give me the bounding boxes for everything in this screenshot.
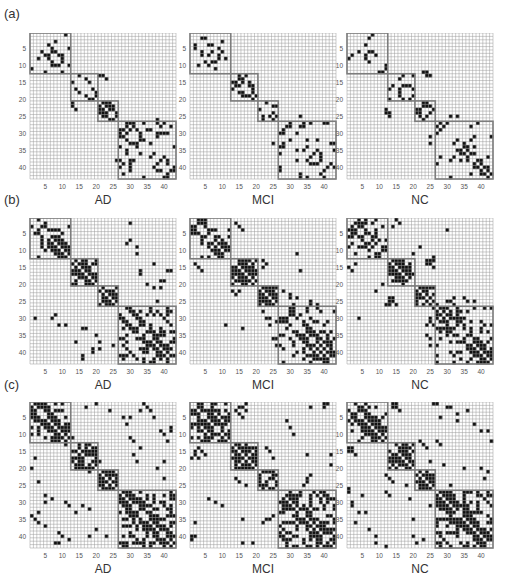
svg-text:35: 35	[19, 516, 27, 523]
svg-text:15: 15	[76, 552, 84, 559]
group-label-nc: NC	[347, 378, 493, 392]
svg-text:40: 40	[19, 164, 27, 171]
svg-text:30: 30	[287, 368, 295, 375]
svg-text:30: 30	[127, 552, 135, 559]
adjacency-matrix: 551010151520202525303035354040	[168, 33, 340, 193]
svg-text:30: 30	[127, 183, 135, 190]
svg-text:20: 20	[253, 368, 261, 375]
svg-text:25: 25	[110, 368, 118, 375]
matrix-panel-b-nc: 551010151520202525303035354040	[325, 218, 497, 378]
svg-text:5: 5	[182, 414, 186, 421]
svg-text:20: 20	[410, 183, 418, 190]
svg-text:15: 15	[19, 79, 27, 86]
svg-text:10: 10	[19, 431, 27, 438]
svg-text:15: 15	[236, 368, 244, 375]
svg-text:35: 35	[179, 147, 187, 154]
svg-text:25: 25	[19, 298, 27, 305]
svg-text:10: 10	[19, 247, 27, 254]
svg-text:15: 15	[236, 552, 244, 559]
svg-text:40: 40	[160, 368, 168, 375]
svg-text:15: 15	[393, 552, 401, 559]
svg-text:25: 25	[179, 113, 187, 120]
adjacency-matrix: 551010151520202525303035354040	[8, 218, 180, 378]
svg-text:35: 35	[304, 368, 312, 375]
svg-text:20: 20	[336, 96, 344, 103]
svg-text:15: 15	[76, 183, 84, 190]
svg-text:25: 25	[179, 482, 187, 489]
svg-text:5: 5	[339, 414, 343, 421]
svg-text:35: 35	[179, 516, 187, 523]
svg-text:5: 5	[43, 183, 47, 190]
svg-text:40: 40	[336, 164, 344, 171]
svg-text:35: 35	[336, 516, 344, 523]
adjacency-matrix: 551010151520202525303035354040	[8, 402, 180, 562]
svg-text:20: 20	[19, 465, 27, 472]
svg-text:40: 40	[160, 552, 168, 559]
svg-text:35: 35	[336, 332, 344, 339]
svg-text:15: 15	[179, 79, 187, 86]
svg-text:25: 25	[179, 298, 187, 305]
adjacency-matrix: 551010151520202525303035354040	[168, 218, 340, 378]
svg-text:25: 25	[270, 552, 278, 559]
svg-text:10: 10	[19, 62, 27, 69]
row-label-c: (c)	[4, 377, 19, 392]
svg-text:25: 25	[110, 183, 118, 190]
group-label-ad: AD	[30, 562, 176, 576]
matrix-panel-c-nc: 551010151520202525303035354040	[325, 402, 497, 562]
svg-text:35: 35	[461, 183, 469, 190]
adjacency-matrix: 551010151520202525303035354040	[8, 33, 180, 193]
svg-text:10: 10	[59, 552, 67, 559]
svg-text:25: 25	[336, 113, 344, 120]
svg-text:20: 20	[179, 465, 187, 472]
group-label-mci: MCI	[190, 193, 336, 207]
svg-text:20: 20	[336, 281, 344, 288]
svg-text:30: 30	[19, 130, 27, 137]
matrix-panel-b-ad: 551010151520202525303035354040	[8, 218, 180, 378]
svg-text:20: 20	[93, 368, 101, 375]
svg-text:20: 20	[410, 368, 418, 375]
svg-text:35: 35	[461, 552, 469, 559]
svg-text:15: 15	[76, 368, 84, 375]
svg-text:10: 10	[179, 247, 187, 254]
row-label-b: (b)	[4, 192, 20, 207]
svg-text:5: 5	[182, 230, 186, 237]
svg-text:35: 35	[304, 552, 312, 559]
group-label-ad: AD	[30, 378, 176, 392]
svg-text:5: 5	[43, 552, 47, 559]
svg-text:30: 30	[444, 552, 452, 559]
svg-text:20: 20	[179, 96, 187, 103]
svg-text:35: 35	[19, 332, 27, 339]
svg-text:5: 5	[182, 45, 186, 52]
svg-text:35: 35	[144, 368, 152, 375]
svg-text:40: 40	[477, 183, 485, 190]
svg-text:15: 15	[336, 79, 344, 86]
svg-text:10: 10	[219, 552, 227, 559]
svg-text:30: 30	[336, 130, 344, 137]
svg-text:40: 40	[477, 368, 485, 375]
svg-text:15: 15	[393, 183, 401, 190]
svg-text:30: 30	[179, 315, 187, 322]
svg-text:15: 15	[179, 448, 187, 455]
svg-text:30: 30	[127, 368, 135, 375]
svg-text:5: 5	[339, 45, 343, 52]
svg-text:15: 15	[393, 368, 401, 375]
svg-text:25: 25	[19, 113, 27, 120]
svg-text:20: 20	[19, 96, 27, 103]
svg-text:30: 30	[179, 499, 187, 506]
svg-text:25: 25	[336, 482, 344, 489]
svg-text:35: 35	[336, 147, 344, 154]
svg-text:5: 5	[203, 368, 207, 375]
svg-text:5: 5	[360, 183, 364, 190]
svg-text:40: 40	[477, 552, 485, 559]
svg-text:30: 30	[444, 183, 452, 190]
svg-text:20: 20	[253, 552, 261, 559]
svg-text:20: 20	[93, 183, 101, 190]
svg-text:5: 5	[360, 368, 364, 375]
row-label-a: (a)	[4, 6, 20, 21]
svg-text:20: 20	[179, 281, 187, 288]
matrix-panel-b-mci: 551010151520202525303035354040	[168, 218, 340, 378]
svg-text:40: 40	[160, 183, 168, 190]
svg-text:30: 30	[287, 183, 295, 190]
svg-text:5: 5	[22, 45, 26, 52]
svg-text:25: 25	[19, 482, 27, 489]
